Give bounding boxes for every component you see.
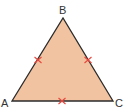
vertex-label-a: A xyxy=(1,97,9,109)
vertex-label-c: C xyxy=(115,97,123,109)
vertex-label-b: B xyxy=(59,4,66,16)
triangle-abc xyxy=(12,18,113,101)
triangle-diagram: B A C xyxy=(0,0,123,111)
